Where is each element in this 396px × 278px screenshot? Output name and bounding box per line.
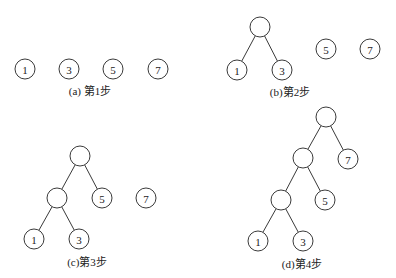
caption-step-1: (a) 第1步 (69, 86, 111, 97)
node-label: 1 (31, 234, 37, 246)
node-circle (250, 17, 270, 37)
tree-edge (308, 126, 321, 150)
leaf-node-5: 5 (92, 188, 112, 208)
tree-edge (331, 126, 344, 150)
leaf-node-3: 3 (272, 60, 292, 80)
node-label: 3 (66, 64, 72, 76)
internal-node (47, 188, 67, 208)
node-circle (70, 146, 90, 166)
node-label: 7 (345, 154, 351, 166)
node-label: 7 (155, 64, 161, 76)
node-label: 1 (255, 236, 261, 248)
node-label: 5 (99, 193, 105, 205)
diagram-canvas: 1357135757137513 (0, 0, 396, 278)
leaf-node-3: 3 (59, 59, 79, 79)
tree-edge (263, 209, 276, 233)
node-label: 3 (76, 234, 82, 246)
leaf-node-1: 1 (227, 60, 247, 80)
node-circle (316, 107, 336, 127)
tree-edge (308, 167, 321, 191)
node-label: 7 (367, 44, 373, 56)
leaf-node-1: 1 (15, 59, 35, 79)
leaf-node-7: 7 (338, 149, 358, 169)
internal-node (316, 107, 336, 127)
leaf-node-5: 5 (315, 190, 335, 210)
node-label: 5 (110, 64, 116, 76)
leaf-node-3: 3 (293, 231, 313, 251)
leaf-node-7: 7 (136, 188, 156, 208)
node-circle (271, 190, 291, 210)
node-label: 5 (322, 195, 328, 207)
panel-b: 1357 (227, 17, 380, 80)
tree-edge (286, 167, 299, 191)
node-label: 5 (323, 44, 329, 56)
panel-d: 7513 (248, 107, 358, 251)
tree-edge (39, 207, 52, 231)
node-label: 7 (143, 193, 149, 205)
leaf-node-3: 3 (69, 229, 89, 249)
node-label: 3 (279, 65, 285, 77)
caption-step-3: (c)第3步 (67, 257, 107, 268)
internal-node (250, 17, 270, 37)
leaf-node-1: 1 (24, 229, 44, 249)
internal-node (293, 148, 313, 168)
node-circle (47, 188, 67, 208)
tree-edge (242, 36, 256, 61)
leaf-node-7: 7 (360, 39, 380, 59)
leaf-node-7: 7 (148, 59, 168, 79)
panel-c: 5713 (24, 146, 156, 249)
tree-edge (62, 207, 75, 230)
node-label: 1 (22, 64, 28, 76)
node-circle (293, 148, 313, 168)
panel-a: 1357 (15, 59, 168, 79)
leaf-node-5: 5 (316, 39, 336, 59)
internal-node (70, 146, 90, 166)
tree-edge (265, 36, 278, 61)
tree-edge (286, 209, 299, 232)
node-label: 3 (300, 236, 306, 248)
leaf-node-1: 1 (248, 231, 268, 251)
leaf-node-5: 5 (103, 59, 123, 79)
internal-node (271, 190, 291, 210)
tree-edge (85, 165, 98, 189)
caption-step-2: (b)第2步 (270, 87, 310, 98)
tree-edge (62, 165, 75, 189)
caption-step-4: (d)第4步 (282, 259, 322, 270)
node-label: 1 (234, 65, 240, 77)
